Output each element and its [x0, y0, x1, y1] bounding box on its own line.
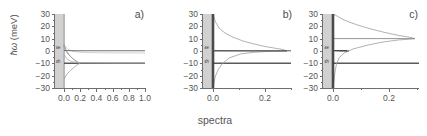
panel-c-y-label-m10: −10 [298, 59, 318, 67]
y-tick-30 [52, 14, 56, 15]
panel-c-y-tick-10 [320, 39, 324, 40]
panel-a-x-tick-08 [129, 88, 130, 92]
panel-b-y-tick-minor-25 [201, 20, 203, 21]
panel-c-electron-annotation: εe [325, 46, 329, 51]
y-tick-10 [52, 39, 56, 40]
panel-c-x-tick-0 [333, 88, 334, 92]
panel-c-y-tick-20 [320, 26, 324, 27]
y-tick-minor-m25 [53, 82, 55, 83]
panel-a-electron-annotation: εe [56, 46, 60, 51]
panel-c-y-label-20: 20 [298, 22, 318, 30]
panel-a-hole-annotation: εh [56, 60, 60, 65]
panel-b-y-tick-10 [200, 39, 204, 40]
panel-c: c) εe εh [296, 0, 422, 136]
panel-c-y-label-10: 10 [298, 35, 318, 43]
panel-b-y-label-30: 30 [178, 10, 198, 18]
panel-c-y-tick-30 [320, 14, 324, 15]
panel-b-y-tick-m10 [200, 63, 204, 64]
panel-b-plot-area: εe εh 30 20 10 0 −10 −20 −30 [202, 14, 291, 89]
panel-b-hole-annotation: εh [205, 60, 209, 65]
y-tick-m10 [52, 63, 56, 64]
y-tick-label-10: 10 [30, 35, 50, 43]
panel-b-y-tick-0 [200, 51, 204, 52]
panel-a-x-tick-minor-03 [88, 88, 89, 90]
panel-c-y-tick-minor-m5 [321, 57, 323, 58]
panel-b-y-tick-minor-m5 [201, 57, 203, 58]
panel-b-x-tick-02 [265, 88, 266, 92]
y-tick-minor-25 [53, 20, 55, 21]
panel-c-y-tick-minor-m15 [321, 70, 323, 71]
panel-c-y-tick-m20 [320, 76, 324, 77]
panel-c-x-label-02: 0.2 [379, 94, 399, 102]
y-tick-minor-15 [53, 33, 55, 34]
panel-c-y-label-30: 30 [298, 10, 318, 18]
panel-a-x-label-10: 1.0 [135, 94, 155, 102]
panel-b-y-tick-m30 [200, 88, 204, 89]
panel-a-x-tick-0 [64, 88, 65, 92]
panel-b-curves [203, 14, 291, 88]
panel-b-y-tick-minor-m25 [201, 82, 203, 83]
panel-c-curves [323, 14, 419, 88]
y-tick-0 [52, 51, 56, 52]
panel-c-x-tick-minor-01 [361, 88, 362, 90]
panel-c-y-tick-minor-5 [321, 45, 323, 46]
panel-a-x-tick-minor-05 [105, 88, 106, 90]
y-tick-minor-5 [53, 45, 55, 46]
panel-c-hole-annotation: εh [325, 60, 329, 65]
panel-a-x-tick-minor-09 [137, 88, 138, 90]
panel-c-y-label-m30: −30 [298, 84, 318, 92]
panel-a-x-tick-minor-07 [121, 88, 122, 90]
panel-c-y-tick-minor-25 [321, 20, 323, 21]
panel-b-y-tick-20 [200, 26, 204, 27]
y-tick-label-m30: −30 [30, 84, 50, 92]
panel-a-plot-area: εe εh 30 20 10 0 −10 −20 −30 [54, 14, 145, 89]
panel-c-y-tick-m10 [320, 63, 324, 64]
panel-c-y-label-0: 0 [298, 47, 318, 55]
y-tick-label-0: 0 [30, 47, 50, 55]
panel-b-y-tick-m20 [200, 76, 204, 77]
panel-b-y-tick-30 [200, 14, 204, 15]
panel-b-y-label-m10: −10 [178, 59, 198, 67]
x-axis-label: spectra [160, 114, 270, 126]
panel-a-x-tick-06 [113, 88, 114, 92]
y-axis-unit: (meV) [8, 14, 19, 43]
panel-b-y-label-m30: −30 [178, 84, 198, 92]
y-tick-label-30: 30 [30, 10, 50, 18]
panel-c-x-tick-minor-03 [417, 88, 418, 90]
y-axis-symbol: ħω [8, 43, 19, 56]
panel-b-x-tick-0 [213, 88, 214, 92]
panel-b-x-tick-minor-03 [291, 88, 292, 90]
panel-b-x-tick-minor-01 [239, 88, 240, 90]
y-axis-label: ħω (meV) [8, 0, 22, 72]
panel-b-y-tick-minor-5 [201, 45, 203, 46]
panel-c-y-tick-minor-15 [321, 33, 323, 34]
panel-b-y-label-m20: −20 [178, 72, 198, 80]
panel-b-y-tick-minor-15 [201, 33, 203, 34]
panel-c-plot-area: εe εh 30 20 10 0 −10 −20 −30 [322, 14, 419, 89]
panel-c-y-tick-minor-m25 [321, 82, 323, 83]
panel-b-electron-annotation: εe [205, 46, 209, 51]
panel-c-x-tick-02 [389, 88, 390, 92]
y-tick-minor-m15 [53, 70, 55, 71]
panel-b-y-tick-minor-m15 [201, 70, 203, 71]
panel-c-x-label-0: 0.0 [323, 94, 343, 102]
panel-b-y-label-10: 10 [178, 35, 198, 43]
panel-c-y-label-m20: −20 [298, 72, 318, 80]
panel-a-x-tick-02 [80, 88, 81, 92]
panel-b-x-label-0: 0.0 [203, 94, 223, 102]
panel-b-y-label-20: 20 [178, 22, 198, 30]
y-tick-label-m10: −10 [30, 59, 50, 67]
y-tick-minor-m5 [53, 57, 55, 58]
panel-b-x-label-02: 0.2 [255, 94, 275, 102]
y-tick-m30 [52, 88, 56, 89]
panel-c-y-tick-m30 [320, 88, 324, 89]
panel-a-x-tick-04 [96, 88, 97, 92]
panel-a: a) εe εh [28, 0, 148, 136]
panel-a-x-tick-10 [145, 88, 146, 92]
panel-a-curves [55, 14, 145, 88]
spectra-figure: ħω (meV) a) εe εh [0, 0, 427, 136]
y-tick-label-20: 20 [30, 22, 50, 30]
y-tick-20 [52, 26, 56, 27]
panel-b-y-label-0: 0 [178, 47, 198, 55]
y-tick-m20 [52, 76, 56, 77]
